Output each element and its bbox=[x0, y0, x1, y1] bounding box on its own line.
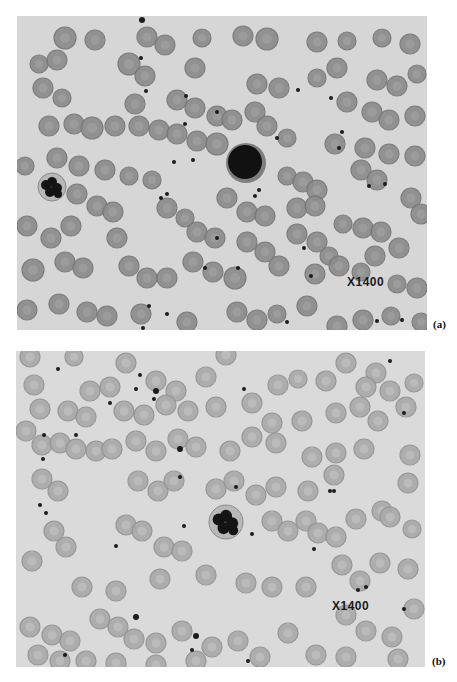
red-blood-cell bbox=[126, 431, 146, 451]
neutrophil-cell bbox=[209, 505, 243, 539]
platelet-dot bbox=[285, 320, 289, 324]
red-blood-cell bbox=[76, 407, 96, 427]
red-blood-cell bbox=[292, 411, 312, 431]
red-blood-cell bbox=[220, 441, 240, 461]
red-blood-cell bbox=[324, 465, 344, 485]
red-blood-cell bbox=[132, 521, 152, 541]
platelet-dot bbox=[38, 503, 42, 507]
platelet-dot bbox=[337, 146, 341, 150]
red-blood-cell bbox=[389, 238, 409, 258]
red-blood-cell bbox=[120, 167, 138, 185]
red-blood-cell bbox=[269, 256, 289, 276]
red-blood-cell bbox=[388, 275, 406, 293]
red-blood-cell bbox=[124, 629, 144, 649]
red-blood-cell bbox=[224, 471, 244, 491]
red-blood-cell bbox=[55, 252, 75, 272]
platelet-dot bbox=[183, 122, 187, 126]
red-blood-cell bbox=[305, 264, 325, 284]
neutrophil-cell bbox=[38, 173, 66, 201]
platelet-dot bbox=[138, 373, 142, 377]
red-blood-cell bbox=[97, 306, 117, 326]
red-blood-cell bbox=[80, 381, 100, 401]
red-blood-cell bbox=[30, 399, 50, 419]
platelet-dot bbox=[172, 160, 176, 164]
platelet-dot bbox=[133, 614, 139, 620]
red-blood-cell bbox=[186, 437, 206, 457]
red-blood-cell bbox=[278, 623, 298, 643]
red-blood-cell bbox=[400, 445, 420, 465]
red-blood-cell bbox=[54, 27, 76, 49]
lymphocyte-cell bbox=[226, 143, 266, 183]
red-blood-cell bbox=[338, 32, 356, 50]
red-blood-cell bbox=[216, 351, 236, 365]
red-blood-cell bbox=[316, 371, 336, 391]
platelet-dot bbox=[253, 194, 257, 198]
red-blood-cell bbox=[125, 94, 145, 114]
platelet-dot bbox=[332, 489, 336, 493]
red-blood-cell bbox=[30, 55, 48, 73]
red-blood-cell bbox=[67, 184, 87, 204]
red-blood-cell bbox=[107, 228, 127, 248]
red-blood-cell bbox=[255, 206, 275, 226]
platelet-dot bbox=[375, 319, 379, 323]
platelet-dot bbox=[215, 236, 219, 240]
red-blood-cell bbox=[246, 485, 266, 505]
red-blood-cell bbox=[17, 216, 37, 236]
red-blood-cell bbox=[156, 395, 176, 415]
platelet-dot bbox=[134, 387, 138, 391]
red-blood-cell bbox=[150, 569, 170, 589]
red-blood-cell bbox=[326, 443, 346, 463]
platelet-dot bbox=[108, 401, 112, 405]
red-blood-cell bbox=[262, 413, 282, 433]
platelet-dot bbox=[178, 475, 182, 479]
red-blood-cell bbox=[382, 627, 402, 647]
platelet-dot bbox=[152, 397, 156, 401]
red-blood-cell bbox=[266, 433, 286, 453]
red-blood-cell bbox=[167, 124, 187, 144]
red-blood-cell bbox=[370, 553, 390, 573]
platelet-dot bbox=[165, 192, 169, 196]
red-blood-cell bbox=[61, 216, 81, 236]
platelet-dot bbox=[177, 446, 183, 452]
red-blood-cell bbox=[356, 377, 376, 397]
red-blood-cell bbox=[334, 215, 352, 233]
red-blood-cell bbox=[365, 246, 385, 266]
red-blood-cell bbox=[256, 28, 278, 50]
panel-label-a: (a) bbox=[433, 319, 446, 330]
red-blood-cell bbox=[326, 403, 346, 423]
red-blood-cell bbox=[332, 555, 352, 575]
red-blood-cell bbox=[47, 148, 67, 168]
platelet-dot bbox=[234, 485, 238, 489]
platelet-dot bbox=[296, 88, 300, 92]
red-blood-cell bbox=[266, 477, 286, 497]
red-blood-cell bbox=[257, 116, 277, 136]
platelet-dot bbox=[312, 547, 316, 551]
red-blood-cell bbox=[237, 202, 257, 222]
red-blood-cell bbox=[302, 447, 322, 467]
platelet-dot bbox=[42, 433, 46, 437]
red-blood-cell bbox=[407, 278, 427, 298]
platelet-dot bbox=[147, 304, 151, 308]
red-blood-cell bbox=[228, 631, 248, 651]
red-blood-cell bbox=[202, 637, 222, 657]
red-blood-cell bbox=[412, 313, 427, 330]
red-blood-cell bbox=[367, 70, 387, 90]
red-blood-cell bbox=[373, 29, 391, 47]
red-blood-cell bbox=[308, 69, 326, 87]
red-blood-cell bbox=[143, 171, 161, 189]
red-blood-cell bbox=[116, 353, 136, 373]
platelet-dot bbox=[367, 184, 371, 188]
platelet-dot bbox=[215, 110, 219, 114]
platelet-dot bbox=[402, 411, 406, 415]
red-blood-cell bbox=[134, 405, 154, 425]
red-blood-cell bbox=[85, 30, 105, 50]
platelet-dot bbox=[74, 433, 78, 437]
red-blood-cell bbox=[242, 427, 262, 447]
red-blood-cell bbox=[278, 129, 296, 147]
red-blood-cell bbox=[186, 651, 206, 667]
red-blood-cell bbox=[379, 110, 399, 130]
red-blood-cell bbox=[346, 509, 366, 529]
red-blood-cell bbox=[287, 198, 307, 218]
red-blood-cell bbox=[65, 351, 83, 366]
red-blood-cell bbox=[217, 188, 237, 208]
